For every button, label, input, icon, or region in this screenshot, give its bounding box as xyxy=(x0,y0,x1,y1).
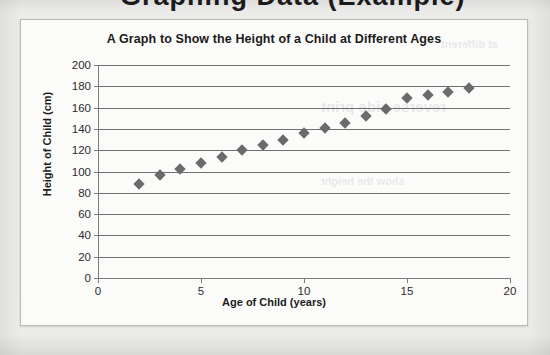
y-axis-tick-mark xyxy=(94,193,98,194)
x-axis-tick-label: 0 xyxy=(95,285,101,297)
x-axis-tick-mark xyxy=(201,278,202,283)
x-axis-tick-label: 20 xyxy=(504,285,517,297)
y-axis-tick-label: 60 xyxy=(78,208,91,220)
y-axis-tick-mark xyxy=(94,257,98,258)
y-axis-tick-mark xyxy=(94,108,98,109)
x-axis-tick-label: 5 xyxy=(198,285,204,297)
y-axis-tick-label: 160 xyxy=(72,102,91,114)
data-point xyxy=(463,83,474,94)
plot-area: 020406080100120140160180200 05101520 xyxy=(98,65,510,278)
data-point xyxy=(216,151,227,162)
gridline xyxy=(98,257,510,258)
y-axis-tick-mark xyxy=(94,129,98,130)
y-axis-tick-label: 80 xyxy=(78,187,91,199)
x-axis-tick-mark xyxy=(304,278,305,283)
y-axis-tick-label: 20 xyxy=(78,251,91,263)
y-axis-tick-label: 140 xyxy=(72,123,91,135)
gridline xyxy=(98,108,510,109)
x-axis-tick-label: 15 xyxy=(401,285,414,297)
y-axis-tick-mark xyxy=(94,214,98,215)
y-axis-tick-label: 40 xyxy=(78,229,91,241)
gridline xyxy=(98,150,510,151)
y-axis-tick-mark xyxy=(94,172,98,173)
cut-off-heading-text: Graphing Data (Example) xyxy=(120,0,466,12)
data-point xyxy=(195,157,206,168)
x-axis-tick-label: 10 xyxy=(298,285,311,297)
y-axis-tick-label: 200 xyxy=(72,59,91,71)
data-point xyxy=(319,122,330,133)
chart-title: A Graph to Show the Height of a Child at… xyxy=(21,32,527,46)
gridline xyxy=(98,193,510,194)
gridline xyxy=(98,65,510,66)
y-axis-tick-mark xyxy=(94,150,98,151)
y-axis-tick-label: 0 xyxy=(85,272,91,284)
data-point xyxy=(360,110,371,121)
data-point xyxy=(257,139,268,150)
data-point xyxy=(422,89,433,100)
x-axis-tick-mark xyxy=(98,278,99,283)
x-axis-title: Age of Child (years) xyxy=(21,296,527,308)
y-axis-tick-label: 180 xyxy=(72,80,91,92)
data-point xyxy=(237,145,248,156)
y-axis-tick-label: 120 xyxy=(72,144,91,156)
chart-container: A Graph to Show the Height of a Child at… xyxy=(20,19,528,326)
data-point xyxy=(381,103,392,114)
y-axis-tick-mark xyxy=(94,86,98,87)
y-axis-tick-label: 100 xyxy=(72,166,91,178)
data-point xyxy=(175,164,186,175)
cut-off-heading-fragment: Graphing Data (Example) xyxy=(0,0,550,17)
data-point xyxy=(340,117,351,128)
data-point xyxy=(278,134,289,145)
gridline xyxy=(98,235,510,236)
x-axis-tick-mark xyxy=(510,278,511,283)
y-axis-tick-mark xyxy=(94,235,98,236)
data-point xyxy=(443,86,454,97)
x-axis-tick-mark xyxy=(407,278,408,283)
gridline xyxy=(98,214,510,215)
data-point xyxy=(134,179,145,190)
data-point xyxy=(401,92,412,103)
y-axis-title: Height of Child (cm) xyxy=(41,64,53,224)
y-axis-tick-mark xyxy=(94,65,98,66)
